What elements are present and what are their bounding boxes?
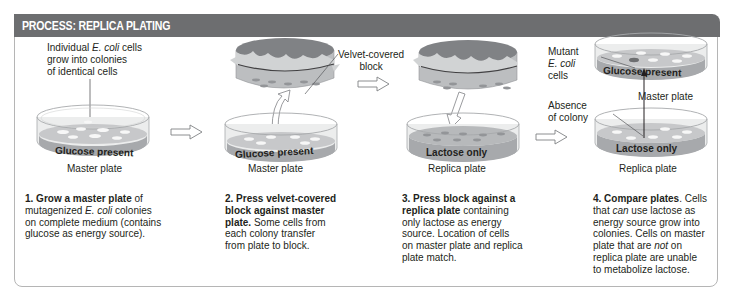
step4-description: 4. Compare plates. Cells that can use la… <box>593 193 723 276</box>
step3-plate-caption: Replica plate <box>428 163 486 174</box>
step2-plate-caption: Master plate <box>248 163 303 174</box>
step4-bottom-plate-caption: Replica plate <box>619 163 677 174</box>
step2-description: 2. Press velvet-covered block against ma… <box>225 193 375 252</box>
step1-annotation: Individual E. coli cells grow into colon… <box>47 42 142 78</box>
right-arrow-icon <box>535 129 569 145</box>
panel-title: PROCESS: REPLICA PLATING <box>22 19 170 33</box>
right-arrow-icon <box>357 76 391 92</box>
velvet-annotation-leader <box>300 52 360 102</box>
step3-medium-label: Lactose only <box>426 147 487 158</box>
step3-description: 3. Press block against a replica plate c… <box>402 193 562 264</box>
step1-description: 1. Grow a master plate of mutagenized E.… <box>25 193 195 240</box>
step1-plate-caption: Master plate <box>67 163 122 174</box>
right-arrow-icon <box>170 124 204 140</box>
step4-comparison-lines <box>565 40 685 160</box>
